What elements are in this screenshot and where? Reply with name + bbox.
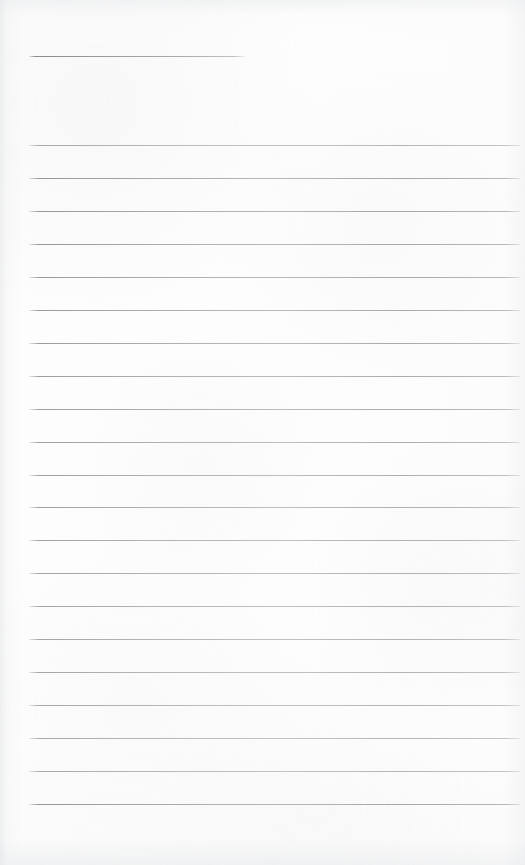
paper-background: [0, 0, 525, 865]
ruled-line: [29, 804, 520, 805]
ruled-line: [29, 475, 520, 476]
ruled-line: [29, 409, 520, 410]
ruled-line: [29, 376, 520, 377]
ruled-line: [29, 178, 520, 179]
ruled-paper-page: [0, 0, 525, 865]
ruled-line: [29, 738, 520, 739]
ruled-line: [29, 771, 520, 772]
ruled-line: [29, 540, 520, 541]
ruled-line: [29, 310, 520, 311]
ruled-line: [29, 442, 520, 443]
ruled-line: [29, 705, 520, 706]
ruled-line: [29, 573, 520, 574]
ruled-line: [29, 507, 520, 508]
ruled-line: [29, 145, 520, 146]
ruled-line: [29, 244, 520, 245]
ruled-line: [29, 211, 520, 212]
ruled-line: [29, 277, 520, 278]
ruled-line: [29, 343, 520, 344]
title-underline-rule: [29, 56, 245, 57]
ruled-line: [29, 672, 520, 673]
ruled-line: [29, 606, 520, 607]
ruled-line: [29, 639, 520, 640]
